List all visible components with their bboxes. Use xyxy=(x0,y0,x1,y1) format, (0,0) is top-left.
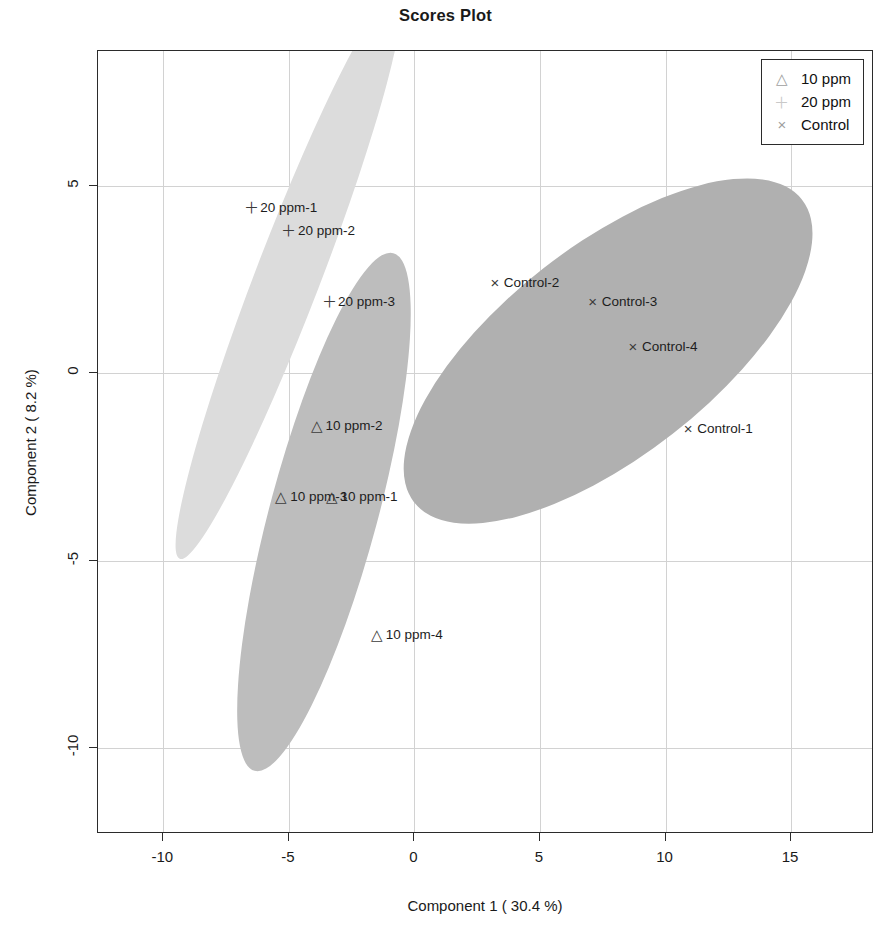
legend-item-label: 20 ppm xyxy=(801,93,851,110)
x-axis-tick-label: -10 xyxy=(132,848,192,865)
y-axis-tick xyxy=(89,185,97,186)
cross-icon: × xyxy=(680,420,696,438)
triangle-up-icon: △ xyxy=(309,417,325,435)
gridline-vertical xyxy=(666,51,667,832)
page-title: Scores Plot xyxy=(0,6,891,25)
plus-icon: ＋ xyxy=(772,91,792,112)
cross-icon: × xyxy=(585,293,601,311)
triangle-up-icon: △ xyxy=(324,488,340,506)
cross-icon: × xyxy=(772,116,792,133)
x-axis-tick-label: 10 xyxy=(635,848,695,865)
y-axis-tick xyxy=(89,560,97,561)
y-axis-tick xyxy=(89,747,97,748)
x-axis-tick-label: 15 xyxy=(760,848,820,865)
data-point-label: Control-3 xyxy=(602,292,658,311)
data-point-label: Control-1 xyxy=(697,419,753,438)
y-axis-tick-label: 0 xyxy=(64,360,81,382)
y-axis-tick-label: 5 xyxy=(64,172,81,194)
data-point-label: 20 ppm-2 xyxy=(298,221,355,240)
data-point-label: Control-2 xyxy=(504,273,560,292)
gridline-horizontal xyxy=(98,748,872,749)
legend: △10 ppm＋20 ppm×Control xyxy=(761,59,864,145)
x-axis-tick-label: -5 xyxy=(258,848,318,865)
plus-icon: ＋ xyxy=(281,222,297,240)
x-axis-label: Component 1 ( 30.4 %) xyxy=(97,897,873,914)
x-axis-tick xyxy=(162,833,163,841)
x-axis-tick xyxy=(539,833,540,841)
data-point-label: 10 ppm-2 xyxy=(326,416,383,435)
x-axis-tick-label: 5 xyxy=(509,848,569,865)
cross-icon: × xyxy=(487,274,503,292)
data-point-label: 10 ppm-1 xyxy=(341,487,398,506)
x-axis-tick xyxy=(288,833,289,841)
data-point-label: 20 ppm-3 xyxy=(338,292,395,311)
plus-icon: ＋ xyxy=(243,199,259,217)
plot-area: ＋20 ppm-1＋20 ppm-2＋20 ppm-3△10 ppm-2△10 … xyxy=(97,50,873,833)
gridline-vertical xyxy=(791,51,792,832)
plus-icon: ＋ xyxy=(321,293,337,311)
legend-item-label: 10 ppm xyxy=(801,70,851,87)
y-axis-tick xyxy=(89,372,97,373)
y-axis-tick-label: -10 xyxy=(64,734,81,756)
data-point-label: 20 ppm-1 xyxy=(260,198,317,217)
scores-plot-figure: Scores Plot ＋20 ppm-1＋20 ppm-2＋20 ppm-3△… xyxy=(0,0,891,936)
y-axis-label: Component 2 ( 8.2 %) xyxy=(22,233,39,653)
triangle-up-icon: △ xyxy=(772,70,792,88)
cross-icon: × xyxy=(625,338,641,356)
legend-item[interactable]: ＋20 ppm xyxy=(772,90,851,113)
legend-item-label: Control xyxy=(801,116,849,133)
x-axis-tick xyxy=(790,833,791,841)
triangle-up-icon: △ xyxy=(369,626,385,644)
gridline-horizontal xyxy=(98,561,872,562)
data-point-label: Control-4 xyxy=(642,337,698,356)
legend-item[interactable]: △10 ppm xyxy=(772,67,851,90)
x-axis-tick xyxy=(413,833,414,841)
gridline-vertical xyxy=(163,51,164,832)
legend-item[interactable]: ×Control xyxy=(772,113,851,136)
y-axis-tick-label: -5 xyxy=(64,547,81,569)
triangle-up-icon: △ xyxy=(273,488,289,506)
data-point-label: 10 ppm-4 xyxy=(386,625,443,644)
plot-canvas: ＋20 ppm-1＋20 ppm-2＋20 ppm-3△10 ppm-2△10 … xyxy=(98,51,872,832)
x-axis-tick xyxy=(665,833,666,841)
x-axis-tick-label: 0 xyxy=(383,848,443,865)
